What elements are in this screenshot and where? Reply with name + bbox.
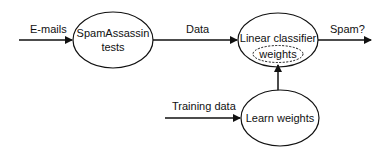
node-learn-weights: Learn weights	[241, 90, 319, 146]
node-learn-label: Learn weights	[246, 112, 315, 124]
node-classifier-label: Linear classifier	[240, 32, 317, 44]
edge-spam: Spam?	[318, 23, 371, 40]
node-spamassassin: SpamAssassin tests	[73, 12, 153, 68]
edge-emails: E-mails	[19, 23, 72, 40]
edge-label-data: Data	[186, 23, 210, 35]
edge-data: Data	[153, 23, 237, 40]
edge-label-emails: E-mails	[30, 23, 67, 35]
edge-label-training: Training data	[172, 100, 237, 112]
node-linear-classifier: Linear classifier weights	[238, 13, 318, 67]
node-weights-label: weights	[258, 48, 297, 60]
node-spamassassin-label-2: tests	[101, 41, 125, 53]
edge-label-spam: Spam?	[330, 23, 365, 35]
node-spamassassin-label-1: SpamAssassin	[77, 27, 150, 39]
edge-training: Training data	[165, 100, 240, 118]
spam-filter-diagram: E-mails SpamAssassin tests Data Linear c…	[0, 0, 389, 153]
